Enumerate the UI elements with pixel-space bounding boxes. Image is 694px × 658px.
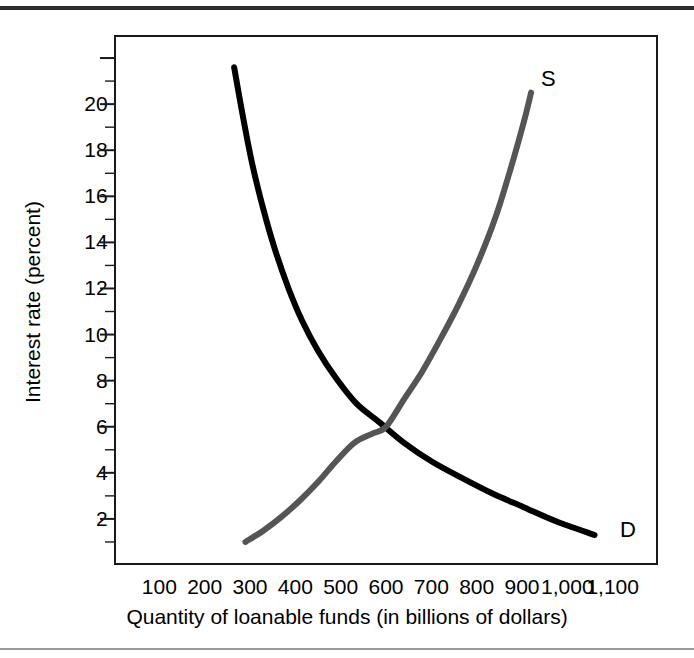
curve-layer <box>114 35 658 565</box>
figure-top-rule <box>0 6 694 10</box>
y-tick-label-12: 12 <box>48 277 108 298</box>
x-axis-title: Quantity of loanable funds (in billions … <box>0 605 694 629</box>
y-tick-label-8: 8 <box>48 370 108 391</box>
loanable-funds-figure: Interest rate (percent) 2468101214161820… <box>0 0 694 658</box>
curve-s <box>245 93 531 542</box>
supply-curve-label: S <box>541 68 556 90</box>
curve-d <box>234 67 594 535</box>
y-tick-label-18: 18 <box>48 139 108 160</box>
x-tick-label-1100: 1,100 <box>573 575 653 599</box>
demand-curve-label: D <box>620 519 636 541</box>
figure-bottom-rule <box>0 648 694 650</box>
x-axis-tick-labels: 1002003004005006007008009001,0001,100 <box>114 575 658 605</box>
y-tick-label-10: 10 <box>48 324 108 345</box>
y-tick-label-6: 6 <box>48 416 108 437</box>
y-tick-label-2: 2 <box>48 508 108 529</box>
y-axis-tick-marks <box>100 35 114 565</box>
y-axis-tick-labels: 2468101214161820 <box>0 35 108 565</box>
plot-area <box>114 35 658 565</box>
y-tick-label-14: 14 <box>48 231 108 252</box>
y-tick-label-20: 20 <box>48 93 108 114</box>
y-tick-label-16: 16 <box>48 185 108 206</box>
y-tick-label-4: 4 <box>48 462 108 483</box>
